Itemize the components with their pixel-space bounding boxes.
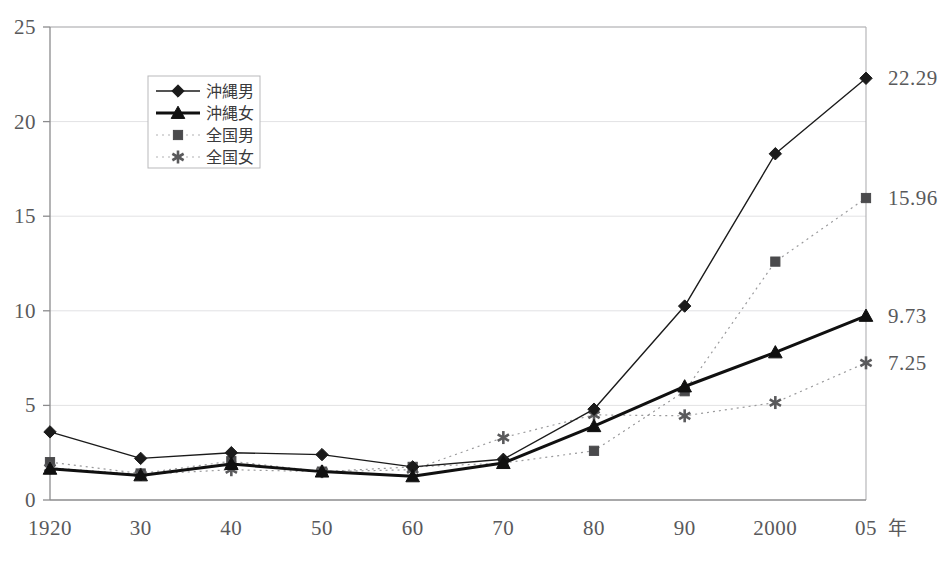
y-tick-label-20: 20: [14, 110, 36, 134]
chart-container: 0510152025 192030405060708090200005年 22.…: [0, 0, 945, 570]
chart-legend: 沖縄男沖縄女全国男全国女: [148, 76, 260, 168]
y-tick-label-25: 25: [14, 15, 36, 39]
x-tick-label-70: 70: [492, 516, 514, 540]
legend-label-全国男: 全国男: [206, 127, 254, 144]
x-tick-label-40: 40: [220, 516, 242, 540]
x-tick-label-1920: 1920: [28, 516, 72, 540]
line-chart: 0510152025 192030405060708090200005年 22.…: [0, 0, 945, 570]
end-value-label-全国女: 7.25: [888, 351, 927, 375]
legend-label-全国女: 全国女: [206, 148, 254, 166]
data-point-marker-square-6: [589, 446, 598, 455]
data-point-marker-square-8: [771, 257, 780, 266]
legend-label-沖縄女: 沖縄女: [206, 104, 254, 122]
end-value-label-沖縄女: 9.73: [888, 304, 927, 328]
y-tick-label-5: 5: [25, 393, 36, 417]
end-value-label-全国男: 15.96: [888, 186, 938, 210]
data-point-marker-square-9: [861, 193, 870, 202]
x-tick-label-30: 30: [130, 516, 152, 540]
x-tick-label-2000: 2000: [753, 516, 797, 540]
legend-square-icon: [173, 130, 182, 139]
end-value-label-沖縄男: 22.29: [888, 66, 938, 90]
y-tick-label-10: 10: [14, 299, 36, 323]
x-axis-unit-label: 年: [888, 518, 908, 539]
y-tick-label-15: 15: [14, 204, 36, 228]
y-tick-label-0: 0: [25, 488, 36, 512]
chart-background: [0, 0, 945, 570]
x-tick-label-50: 50: [311, 516, 333, 540]
legend-label-沖縄男: 沖縄男: [206, 83, 254, 100]
x-tick-label-90: 90: [674, 516, 696, 540]
x-tick-label-60: 60: [402, 516, 424, 540]
x-tick-label-05: 05: [855, 516, 877, 540]
x-tick-label-80: 80: [583, 516, 605, 540]
